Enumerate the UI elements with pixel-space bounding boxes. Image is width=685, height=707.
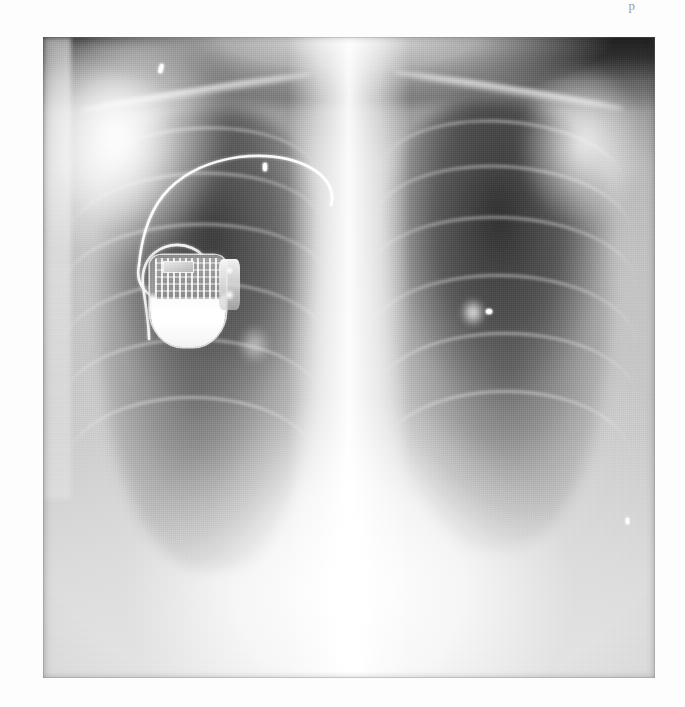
page-running-head: p — [629, 0, 636, 12]
pacemaker-lead — [43, 37, 655, 678]
pacemaker-hybrid-chip — [164, 262, 193, 272]
pacemaker-circuit-board — [155, 258, 222, 300]
pacemaker-set-screw-2 — [223, 288, 236, 301]
pacemaker-battery-cell — [152, 299, 225, 347]
radiopaque-marker-upper-mediastinum — [263, 163, 267, 171]
scanned-page: p — [0, 0, 685, 707]
radiopaque-density-left-hilum — [486, 309, 492, 314]
chest-radiograph-image — [43, 37, 655, 678]
pacemaker-pulse-generator — [150, 255, 226, 347]
